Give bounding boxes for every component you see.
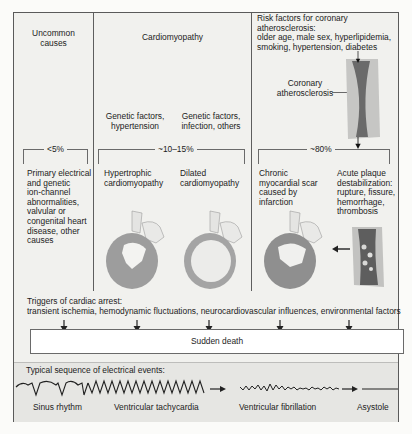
column-divider-1: [93, 13, 94, 291]
dilated-heart-illustration: [180, 209, 252, 291]
left-arrow-icon: [332, 245, 350, 253]
ecg-trace: [14, 377, 398, 399]
thrombosed-vessel-illustration: [350, 225, 386, 289]
triggers-list: transient ischemia, hemodynamic fluctuat…: [27, 307, 401, 317]
cardiomyopathy-bracket: ~10–15%: [98, 149, 245, 164]
hypertrophic-label: Hypertrophic cardiomyopathy: [104, 169, 176, 188]
cardiomyopathy-factor-2: Genetic factors, infection, others: [172, 112, 250, 131]
sudden-death-label: Sudden death: [31, 337, 403, 347]
coronary-down-arrow-icon: [354, 137, 362, 149]
stage-ventricular-fibrillation: Ventricular fibrillation: [239, 403, 316, 413]
coronary-bracket: ~80%: [258, 149, 390, 164]
uncommon-causes-title: Uncommon causes: [14, 29, 93, 48]
electrical-events-title: Typical sequence of electrical events:: [26, 366, 165, 376]
hypertrophic-heart-illustration: [102, 209, 174, 291]
electrical-events-panel: Typical sequence of electrical events: S…: [14, 362, 398, 422]
stage-asystole: Asystole: [357, 403, 389, 413]
coronary-vessel-illustration: [342, 57, 382, 141]
dilated-label: Dilated cardiomyopathy: [180, 169, 252, 188]
diagram-frame: Uncommon causes <5% Primary electrical a…: [13, 12, 399, 422]
chronic-scar-label: Chronic myocardial scar caused by infarc…: [259, 169, 331, 207]
sudden-death-box: Sudden death: [30, 329, 404, 354]
uncommon-description: Primary electrical and genetic ion-chann…: [27, 169, 97, 246]
stage-sinus-rhythm: Sinus rhythm: [33, 403, 82, 413]
coronary-percent: ~80%: [307, 144, 335, 154]
uncommon-bracket: <5%: [23, 149, 88, 164]
cardiomyopathy-percent: ~10–15%: [155, 144, 197, 154]
cardiomyopathy-factor-1: Genetic factors, hypertension: [96, 112, 174, 131]
cardiomyopathy-title: Cardiomyopathy: [94, 33, 251, 43]
stage-ventricular-tachycardia: Ventricular tachycardia: [114, 403, 199, 413]
risk-down-arrow-icon: [354, 51, 362, 63]
risk-factors-text: Risk factors for coronary atherosclerosi…: [257, 14, 397, 52]
scarred-heart-illustration: [260, 209, 332, 291]
uncommon-percent: <5%: [44, 144, 67, 154]
coronary-atherosclerosis-label: Coronary atherosclerosis: [276, 79, 334, 98]
acute-plaque-label: Acute plaque destabilization: rupture, f…: [337, 169, 399, 217]
